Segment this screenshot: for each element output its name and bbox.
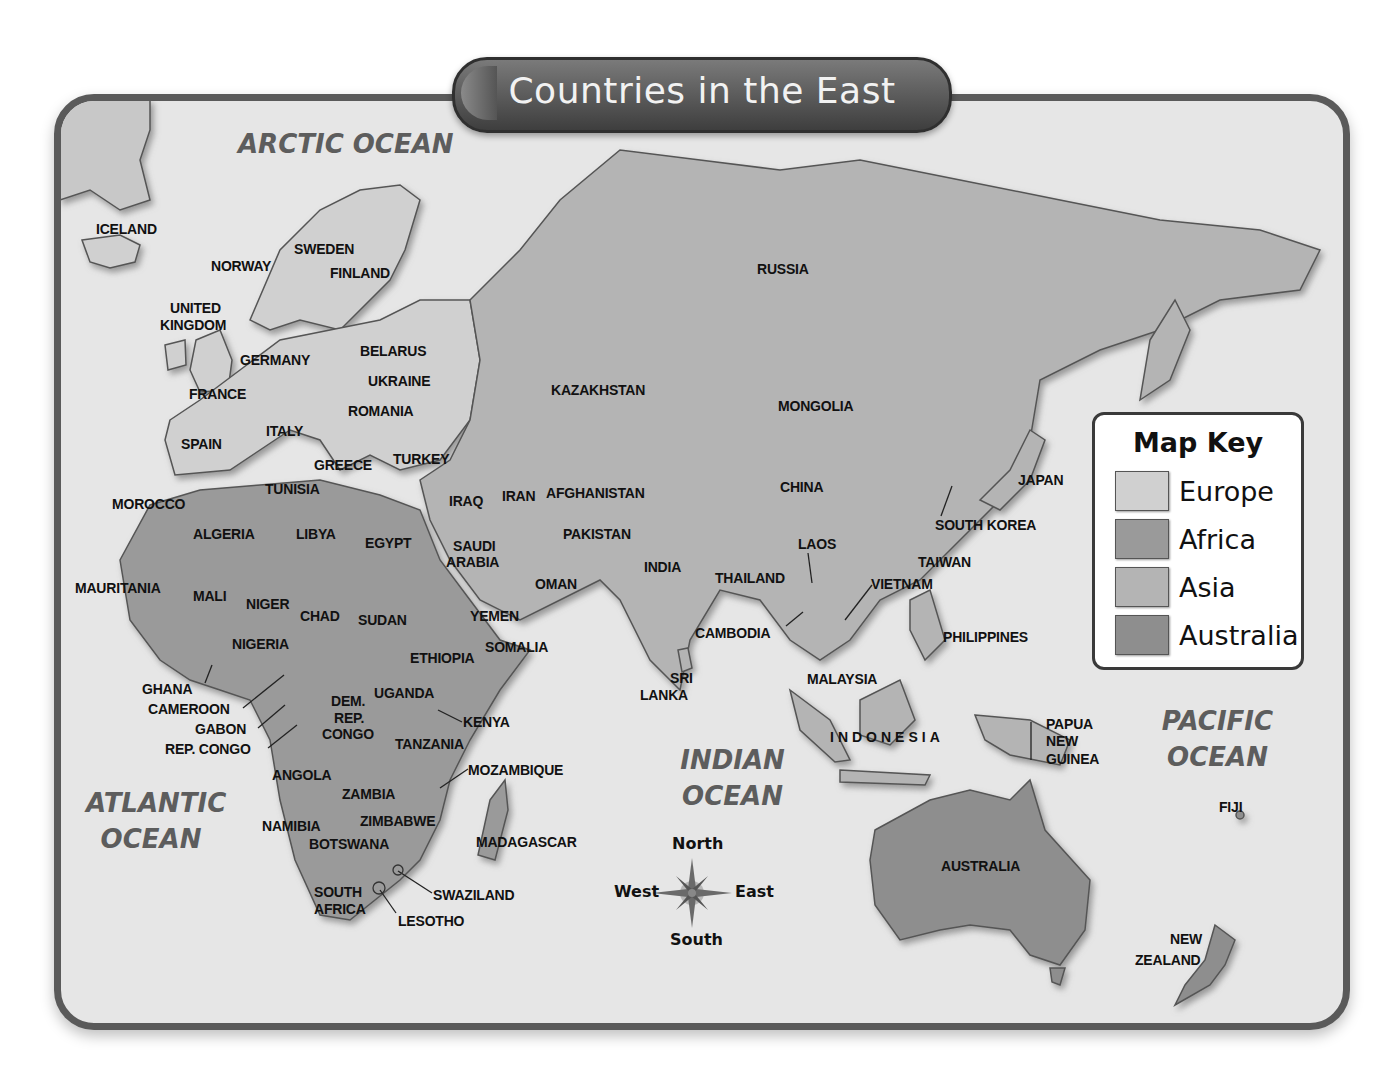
- map-key: Map Key Europe Africa Asia Australia: [1092, 412, 1304, 670]
- map-key-label-asia: Asia: [1179, 572, 1236, 603]
- compass-east: East: [735, 882, 774, 901]
- map-key-label-africa: Africa: [1179, 524, 1256, 555]
- map-key-item-europe: Europe: [1115, 471, 1274, 511]
- map-key-item-africa: Africa: [1115, 519, 1256, 559]
- swatch-asia: [1115, 567, 1169, 607]
- map-key-title: Map Key: [1095, 427, 1301, 458]
- map-key-item-asia: Asia: [1115, 567, 1236, 607]
- swatch-europe: [1115, 471, 1169, 511]
- map-key-item-australia: Australia: [1115, 615, 1298, 655]
- compass-north: North: [672, 834, 723, 853]
- compass-south: South: [670, 930, 723, 949]
- compass-star-icon: [652, 858, 732, 928]
- map-key-label-europe: Europe: [1179, 476, 1274, 507]
- swatch-africa: [1115, 519, 1169, 559]
- compass-west: West: [614, 882, 659, 901]
- swatch-australia: [1115, 615, 1169, 655]
- map-key-label-australia: Australia: [1179, 620, 1298, 651]
